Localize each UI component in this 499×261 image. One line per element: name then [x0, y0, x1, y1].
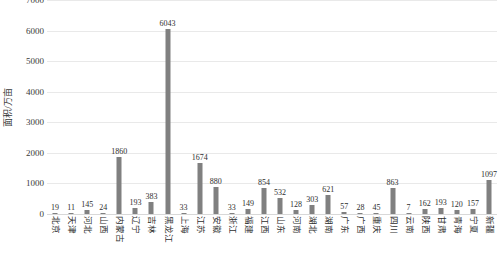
bar-slot: 6043: [160, 0, 176, 214]
bar-slot: 863: [385, 0, 401, 214]
bar-value-label: 621: [322, 185, 334, 194]
x-tick-label: 内蒙古: [115, 216, 124, 243]
bar-slot: 383: [143, 0, 159, 214]
x-tick-slot: 江西: [256, 216, 272, 261]
bar-value-label: 28: [356, 203, 364, 212]
bar: [342, 212, 347, 214]
bar-slot: 1097: [481, 0, 497, 214]
bar-slot: 45: [368, 0, 384, 214]
x-tick-slot: 安徽: [208, 216, 224, 261]
bar-value-label: 128: [290, 200, 302, 209]
x-tick-slot: 黑龙江: [160, 216, 176, 261]
bar-value-label: 149: [242, 199, 254, 208]
x-tick-slot: 吉林: [143, 216, 159, 261]
bar: [422, 209, 427, 214]
bar-slot: 162: [417, 0, 433, 214]
x-tick-label: 河南: [292, 216, 301, 234]
bar-slot: 19: [47, 0, 63, 214]
y-tick-label: 7000: [26, 0, 44, 5]
x-tick-slot: 浙江: [224, 216, 240, 261]
x-tick-label: 广西: [356, 216, 365, 234]
bar: [133, 208, 138, 214]
bar: [197, 163, 202, 214]
bar: [358, 213, 363, 214]
bar-slot: 28: [352, 0, 368, 214]
x-tick-label: 浙江: [227, 216, 236, 234]
bar-slot: 1860: [111, 0, 127, 214]
x-tick-slot: 重庆: [368, 216, 384, 261]
bar-value-label: 1674: [192, 153, 208, 162]
x-tick-label: 重庆: [372, 216, 381, 234]
x-tick-slot: 上海: [176, 216, 192, 261]
bar: [101, 213, 106, 214]
x-tick-slot: 河北: [79, 216, 95, 261]
axis-baseline: [47, 214, 497, 215]
bar: [149, 202, 154, 214]
bar-slot: 145: [79, 0, 95, 214]
bar-value-label: 854: [258, 178, 270, 187]
x-tick-slot: 广西: [352, 216, 368, 261]
bar: [438, 208, 443, 214]
x-tick-label: 江苏: [195, 216, 204, 234]
bar: [53, 213, 58, 214]
y-tick-label: 2000: [26, 148, 44, 157]
bar-value-label: 532: [274, 188, 286, 197]
x-tick-label: 辽宁: [131, 216, 140, 234]
plot-area: 1911145241860193383604333167488033149854…: [47, 0, 497, 214]
bar: [406, 213, 411, 214]
bar-value-label: 57: [340, 202, 348, 211]
x-tick-slot: 天津: [63, 216, 79, 261]
bar: [229, 213, 234, 214]
bar-slot: 532: [272, 0, 288, 214]
bar-slot: 854: [256, 0, 272, 214]
x-tick-label: 江西: [259, 216, 268, 234]
bar-value-label: 880: [210, 177, 222, 186]
x-tick-slot: 湖南: [320, 216, 336, 261]
x-tick-label: 青海: [452, 216, 461, 234]
bar: [245, 209, 250, 214]
x-tick-label: 湖北: [308, 216, 317, 234]
x-tick-label: 吉林: [147, 216, 156, 234]
x-tick-label: 广东: [340, 216, 349, 234]
bar-slot: 120: [449, 0, 465, 214]
bar: [165, 29, 170, 214]
bar-value-label: 1097: [481, 170, 497, 179]
bar-value-label: 162: [419, 199, 431, 208]
bar-value-label: 45: [372, 203, 380, 212]
bar: [486, 180, 491, 214]
bar: [374, 213, 379, 214]
x-tick-label: 陕西: [420, 216, 429, 234]
x-tick-label: 新疆: [484, 216, 493, 234]
x-tick-slot: 陕西: [417, 216, 433, 261]
x-tick-label: 湖南: [324, 216, 333, 234]
bar: [454, 210, 459, 214]
bar-value-label: 157: [467, 199, 479, 208]
bar: [470, 209, 475, 214]
x-tick-label: 云南: [404, 216, 413, 234]
x-tick-label: 山西: [99, 216, 108, 234]
bar-value-label: 145: [81, 200, 93, 209]
bar: [261, 188, 266, 214]
bar: [310, 205, 315, 214]
bar-value-label: 193: [129, 198, 141, 207]
bar-slot: 11: [63, 0, 79, 214]
bar: [69, 213, 74, 214]
y-tick-label: 0: [40, 210, 45, 219]
x-axis-tick-labels: 北京天津河北山西内蒙古辽宁吉林黑龙江上海江苏安徽浙江福建江西山东河南湖北湖南广东…: [47, 216, 497, 261]
x-tick-slot: 新疆: [481, 216, 497, 261]
x-tick-slot: 四川: [385, 216, 401, 261]
bar-slot: 128: [288, 0, 304, 214]
x-tick-slot: 湖北: [304, 216, 320, 261]
bar-slot: 24: [95, 0, 111, 214]
bar-slot: 57: [336, 0, 352, 214]
bar-value-label: 863: [387, 178, 399, 187]
bar-value-label: 193: [435, 198, 447, 207]
x-tick-label: 福建: [243, 216, 252, 234]
bar-slot: 7: [401, 0, 417, 214]
x-tick-label: 上海: [179, 216, 188, 234]
bar-slot: 621: [320, 0, 336, 214]
bar: [213, 187, 218, 214]
x-tick-slot: 江苏: [192, 216, 208, 261]
x-tick-label: 河北: [83, 216, 92, 234]
y-tick-label: 5000: [26, 57, 44, 66]
